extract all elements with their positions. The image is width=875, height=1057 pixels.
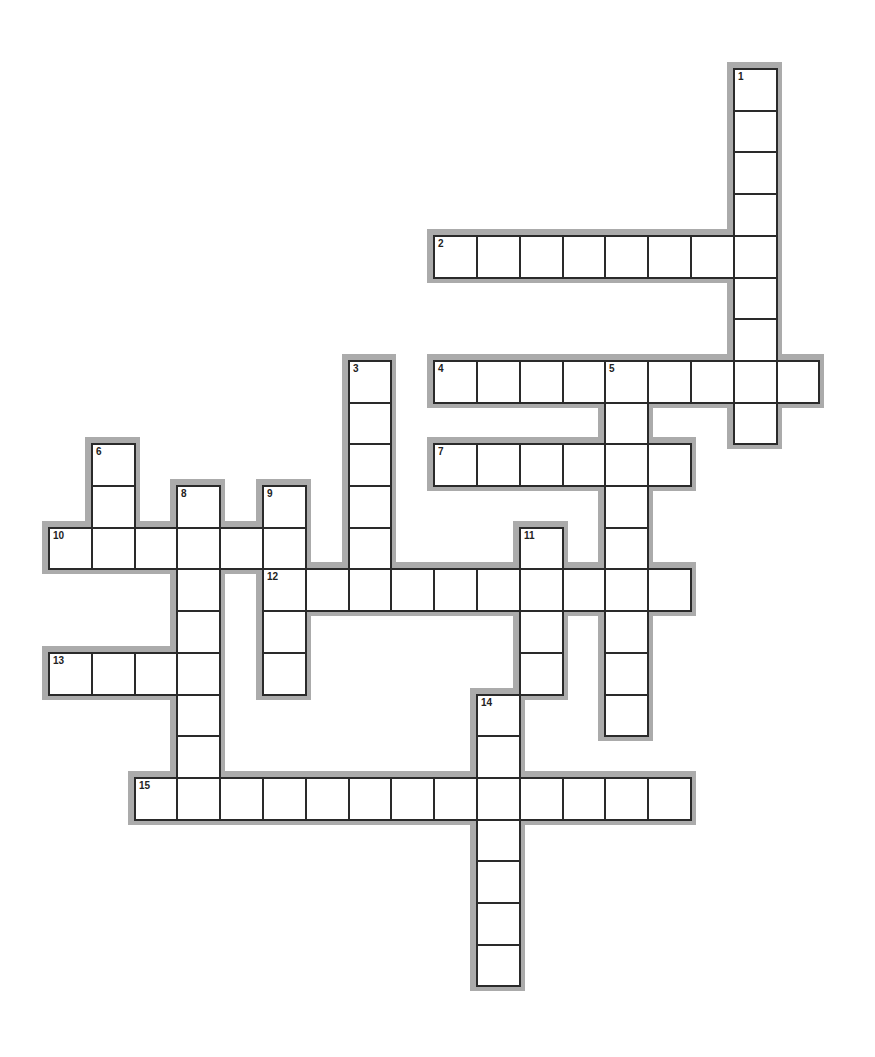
crossword-cell[interactable]: 10	[48, 527, 93, 570]
crossword-cell[interactable]	[262, 610, 307, 654]
crossword-cell[interactable]	[647, 360, 692, 404]
crossword-cell[interactable]	[219, 527, 264, 570]
crossword-cell[interactable]	[519, 652, 564, 696]
crossword-cell[interactable]	[219, 777, 264, 821]
crossword-cell[interactable]	[604, 527, 649, 570]
crossword-cell[interactable]	[433, 777, 478, 821]
crossword-cell[interactable]: 9	[262, 485, 307, 529]
crossword-cell[interactable]	[647, 568, 692, 612]
crossword-cell[interactable]	[519, 610, 564, 654]
crossword-cell[interactable]: 15	[134, 777, 178, 821]
crossword-cell[interactable]: 12	[262, 568, 307, 612]
crossword-cell[interactable]	[262, 777, 307, 821]
crossword-cell[interactable]	[604, 652, 649, 696]
crossword-cell[interactable]	[176, 527, 221, 570]
crossword-cell[interactable]	[262, 527, 307, 570]
crossword-cell[interactable]	[476, 819, 521, 862]
crossword-cell[interactable]	[519, 568, 564, 612]
crossword-cell[interactable]	[562, 568, 606, 612]
crossword-cell[interactable]	[348, 568, 392, 612]
crossword-cell[interactable]	[604, 694, 649, 737]
crossword-cell[interactable]	[562, 443, 606, 487]
crossword-cell[interactable]	[476, 443, 521, 487]
crossword-cell[interactable]	[733, 277, 778, 320]
crossword-cell[interactable]	[604, 777, 649, 821]
crossword-cell[interactable]	[604, 485, 649, 529]
crossword-cell[interactable]: 5	[604, 360, 649, 404]
crossword-cell[interactable]	[733, 110, 778, 153]
crossword-cell[interactable]	[647, 443, 692, 487]
crossword-cell[interactable]	[348, 527, 392, 570]
crossword-cell[interactable]	[176, 610, 221, 654]
crossword-cell[interactable]	[562, 777, 606, 821]
crossword-cell[interactable]	[176, 652, 221, 696]
crossword-cell[interactable]	[476, 360, 521, 404]
clue-number: 9	[267, 488, 273, 499]
crossword-cell[interactable]	[647, 235, 692, 279]
crossword-cell[interactable]	[176, 568, 221, 612]
crossword-cell[interactable]	[519, 443, 564, 487]
crossword-cell[interactable]: 13	[48, 652, 93, 696]
crossword-cell[interactable]	[519, 235, 564, 279]
crossword-cell[interactable]: 11	[519, 527, 564, 570]
crossword-cell[interactable]	[476, 568, 521, 612]
crossword-cell[interactable]	[390, 568, 435, 612]
crossword-cell[interactable]	[776, 360, 820, 404]
crossword-cell[interactable]	[476, 235, 521, 279]
crossword-cell[interactable]	[733, 402, 778, 445]
crossword-cell[interactable]	[433, 568, 478, 612]
clue-number: 15	[139, 780, 150, 791]
crossword-cell[interactable]	[733, 318, 778, 362]
crossword-cell[interactable]	[134, 652, 178, 696]
crossword-cell[interactable]	[390, 777, 435, 821]
crossword-cell[interactable]	[733, 235, 778, 279]
clue-number: 4	[438, 363, 444, 374]
crossword-cell[interactable]	[305, 568, 350, 612]
crossword-cell[interactable]	[476, 860, 521, 904]
crossword-cell[interactable]	[733, 360, 778, 404]
crossword-cell[interactable]: 3	[348, 360, 392, 404]
crossword-cell[interactable]	[519, 777, 564, 821]
crossword-cell[interactable]	[348, 443, 392, 487]
clue-number: 13	[53, 655, 64, 666]
crossword-cell[interactable]	[91, 652, 136, 696]
crossword-cell[interactable]	[733, 151, 778, 195]
crossword-cell[interactable]: 1	[733, 68, 778, 112]
crossword-cell[interactable]	[604, 235, 649, 279]
crossword-cell[interactable]	[348, 777, 392, 821]
crossword-cell[interactable]	[348, 485, 392, 529]
crossword-cell[interactable]	[690, 360, 735, 404]
crossword-cell[interactable]	[604, 443, 649, 487]
clue-number: 11	[524, 530, 535, 541]
crossword-cell[interactable]: 2	[433, 235, 478, 279]
crossword-cell[interactable]: 6	[91, 443, 136, 487]
crossword-cell[interactable]	[604, 568, 649, 612]
crossword-cell[interactable]	[91, 527, 136, 570]
crossword-cell[interactable]	[476, 902, 521, 946]
crossword-cell[interactable]	[91, 485, 136, 529]
crossword-cell[interactable]	[604, 610, 649, 654]
crossword-cell[interactable]	[305, 777, 350, 821]
crossword-cell[interactable]	[476, 735, 521, 779]
crossword-cell[interactable]	[562, 235, 606, 279]
crossword-cell[interactable]	[176, 777, 221, 821]
crossword-cell[interactable]	[562, 360, 606, 404]
crossword-cell[interactable]: 4	[433, 360, 478, 404]
crossword-cell[interactable]	[348, 402, 392, 445]
clue-number: 5	[609, 363, 615, 374]
crossword-cell[interactable]	[733, 193, 778, 237]
crossword-cell[interactable]	[647, 777, 692, 821]
clue-number: 7	[438, 446, 444, 457]
crossword-cell[interactable]	[476, 777, 521, 821]
crossword-cell[interactable]: 8	[176, 485, 221, 529]
crossword-cell[interactable]	[134, 527, 178, 570]
crossword-cell[interactable]	[176, 694, 221, 737]
crossword-cell[interactable]	[604, 402, 649, 445]
crossword-cell[interactable]	[476, 944, 521, 987]
crossword-cell[interactable]: 7	[433, 443, 478, 487]
crossword-cell[interactable]	[690, 235, 735, 279]
crossword-cell[interactable]	[262, 652, 307, 696]
crossword-cell[interactable]	[176, 735, 221, 779]
crossword-cell[interactable]	[519, 360, 564, 404]
crossword-cell[interactable]: 14	[476, 694, 521, 737]
